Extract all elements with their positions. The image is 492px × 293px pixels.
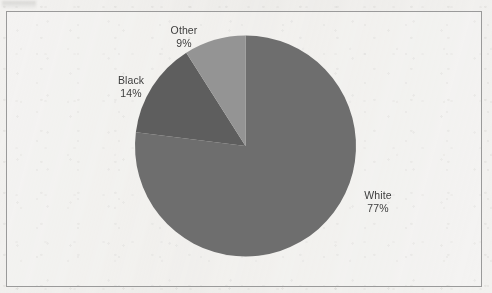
pie-label-black-name: Black (95, 74, 167, 87)
pie-chart-svg (0, 0, 492, 293)
pie-label-black: Black 14% (95, 74, 167, 99)
pie-label-other: Other 9% (146, 24, 222, 49)
pie-label-white: White 77% (340, 189, 416, 214)
pie-label-white-name: White (340, 189, 416, 202)
scanned-page: White 77% Black 14% Other 9% (0, 0, 492, 293)
pie-label-black-value: 14% (95, 87, 167, 100)
pie-chart: White 77% Black 14% Other 9% (0, 0, 492, 293)
pie-label-other-name: Other (146, 24, 222, 37)
pie-slice-group (135, 35, 356, 256)
pie-label-other-value: 9% (146, 37, 222, 50)
pie-label-white-value: 77% (340, 202, 416, 215)
